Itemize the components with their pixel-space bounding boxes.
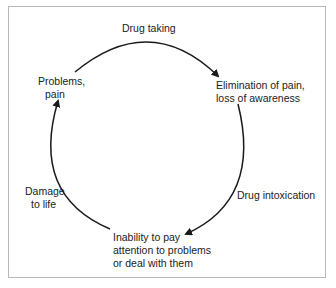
arrow-drug-taking [75, 42, 218, 76]
edge-label-drug-taking: Drug taking [122, 22, 176, 35]
node-problems-line2: pain [45, 88, 65, 101]
edge-label-drug-intoxication: Drug intoxication [237, 189, 315, 202]
edge-label-damage-line1: Damage [25, 185, 65, 198]
node-inability-line1: Inability to pay [113, 231, 180, 244]
node-elimination-line1: Elimination of pain, [216, 79, 305, 92]
arrow-drug-intoxication [186, 104, 244, 234]
node-problems-line1: Problems, [38, 75, 85, 88]
node-inability-line3: or deal with them [113, 257, 193, 270]
edge-label-damage-line2: to life [31, 198, 56, 211]
node-inability-line2: attention to problems [113, 244, 211, 257]
node-elimination-line2: loss of awareness [216, 92, 300, 105]
arrow-damage-to-life [51, 101, 110, 229]
